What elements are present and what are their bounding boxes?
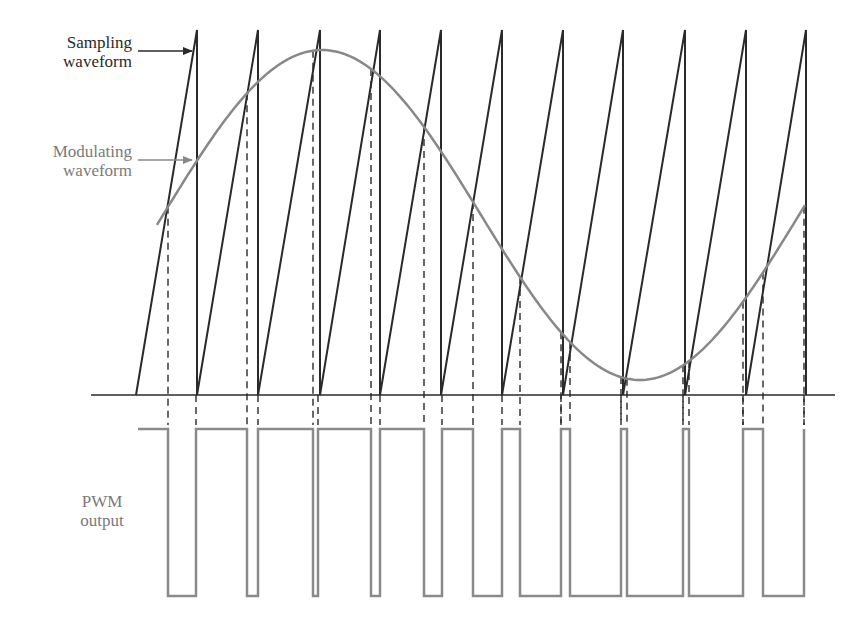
pwm-label-line2: output xyxy=(70,511,134,530)
modulating-label-line1: Modulating xyxy=(10,142,132,161)
pwm-label-line1: PWM xyxy=(70,492,134,511)
sampling-label-line1: Sampling xyxy=(30,33,132,52)
sampling-label-line2: waveform xyxy=(30,52,132,71)
pwm-output-waveform xyxy=(138,429,804,596)
pwm-output-label: PWM output xyxy=(70,492,134,530)
modulating-label-line2: waveform xyxy=(10,161,132,180)
pwm-diagram: Sampling waveform Modulating waveform PW… xyxy=(0,0,849,629)
modulating-waveform xyxy=(157,50,805,380)
sampling-waveform-label: Sampling waveform xyxy=(30,33,132,71)
sampling-waveform xyxy=(136,30,806,395)
diagram-canvas xyxy=(0,0,849,629)
modulating-waveform-label: Modulating waveform xyxy=(10,142,132,180)
